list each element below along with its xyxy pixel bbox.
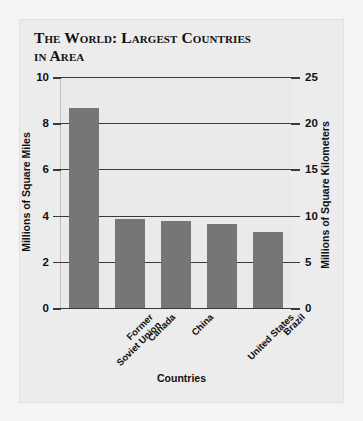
y-tick-label-right: 15 [305,163,318,175]
gridline [61,77,291,78]
y-axis-line [60,77,61,308]
bar [253,232,283,308]
chart-panel: The World: Largest Countries in Area Mil… [19,19,344,403]
chart-title-line-1: The World: Largest Countries [34,29,330,47]
y-tick-label-left: 2 [43,256,49,268]
x-axis-label: Countries [20,372,343,384]
y-tick-right [291,216,300,218]
chart-title-line-2: in Area [34,47,330,65]
y-tick-label-left: 6 [43,163,49,175]
y-tick-label-right: 0 [305,302,311,314]
y-tick-left [53,123,61,125]
y-tick-left [53,77,61,79]
y-tick-label-right: 20 [305,117,318,129]
plot-area: 02468100510152025 [61,77,291,308]
bar [115,219,145,308]
y-tick-label-right: 25 [305,71,318,83]
y-tick-right [291,169,300,171]
y-tick-label-left: 4 [43,210,49,222]
bar [161,221,191,308]
bar [69,108,99,308]
y-tick-left [53,216,61,218]
chart-title: The World: Largest Countries in Area [34,29,330,65]
y-tick-right [291,262,300,264]
y-tick-left [53,262,61,264]
y-tick-right [291,77,300,79]
y-tick-right [291,308,300,310]
bar [207,224,237,308]
y-tick-left [53,169,61,171]
y-tick-label-right: 10 [305,210,318,222]
y-tick-label-left: 0 [43,302,49,314]
y-tick-label-right: 5 [305,256,311,268]
y-tick-label-left: 10 [36,71,49,83]
y-tick-label-left: 8 [43,117,49,129]
y-tick-left [53,308,61,310]
y-tick-right [291,123,300,125]
y-axis-label-left: Millions of Square Miles [20,132,32,252]
y-axis-label-right: Millions of Square Kilometers [319,121,331,269]
x-tick-label: China [190,312,216,338]
